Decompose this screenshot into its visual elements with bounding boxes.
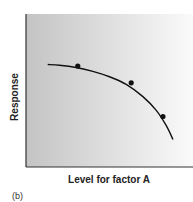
data-point (129, 80, 134, 85)
data-point (160, 114, 165, 119)
plot-area (26, 14, 193, 167)
data-point (75, 63, 80, 68)
x-axis-label: Level for factor A (68, 174, 150, 185)
panel-label: (b) (12, 191, 23, 201)
y-axis-label: Response (9, 73, 20, 121)
response-curve-chart (0, 0, 193, 202)
